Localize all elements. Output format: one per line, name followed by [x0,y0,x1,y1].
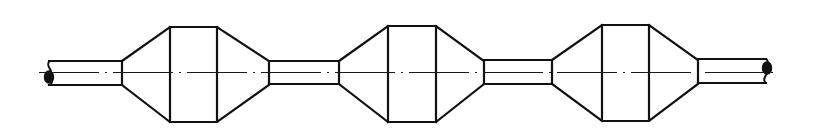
shaft-right-end [698,59,766,83]
drum-2 [339,26,484,122]
drum-outline [122,27,269,122]
shaft-drawing [0,0,825,139]
drum-1 [122,27,269,122]
right-break-icon [763,59,772,83]
drums-group [122,25,698,122]
drum-outline [339,26,484,122]
